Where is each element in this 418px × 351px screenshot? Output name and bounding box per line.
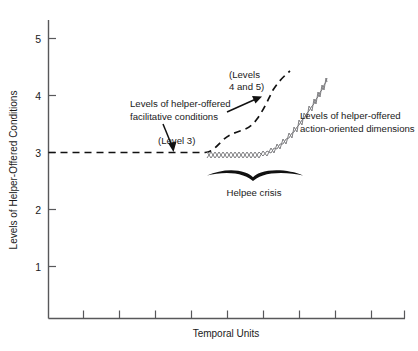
helpee-crisis-label: Helpee crisis [227, 187, 282, 198]
chart-figure: 5 4 3 2 1 Temporal Units Levels of Helpe… [0, 0, 418, 351]
axes-group [49, 20, 406, 319]
y-tick-label-3: 3 [35, 147, 41, 159]
level-3-label: (Level 3) [158, 135, 195, 146]
y-tick-label-1: 1 [35, 261, 41, 273]
x-axis-title: Temporal Units [193, 328, 260, 339]
facilitative-label-line2: facilitative conditions [130, 111, 218, 122]
levels-45-arrow-line [227, 99, 256, 112]
annotation-levels-4-and-5: (Levels 4 and 5) [227, 69, 264, 112]
annotation-action-oriented: Levels of helper-offered action-oriented… [300, 110, 415, 134]
y-axis-title: Levels of Helper-Offered Conditions [8, 91, 19, 250]
facilitative-label-line1: Levels of helper-offered [130, 98, 231, 109]
action-label-line2: action-oriented dimensions [300, 123, 415, 134]
chart-canvas: 5 4 3 2 1 Temporal Units Levels of Helpe… [0, 0, 418, 351]
levels-45-label-line1: (Levels [229, 69, 260, 80]
annotation-helpee-crisis: Helpee crisis [207, 170, 303, 198]
y-tick-label-2: 2 [35, 204, 41, 216]
y-tick-label-4: 4 [35, 90, 41, 102]
helpee-crisis-brace [207, 170, 303, 181]
y-tick-labels-group: 5 4 3 2 1 [35, 33, 41, 273]
levels-45-label-line2: 4 and 5) [229, 81, 264, 92]
y-tick-label-5: 5 [35, 33, 41, 45]
x-ticks-group [84, 311, 405, 319]
action-label-line1: Levels of helper-offered [300, 110, 401, 121]
